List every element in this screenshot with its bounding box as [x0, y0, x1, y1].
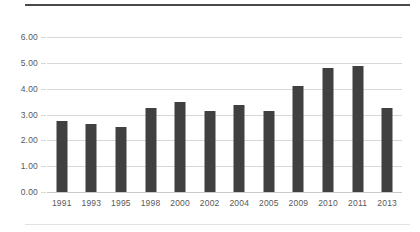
top-divider-rule — [25, 4, 410, 6]
y-axis-tick-mark — [41, 140, 46, 141]
x-axis-label-2013: 2013 — [377, 198, 397, 208]
x-axis-label-1991: 1991 — [52, 198, 72, 208]
x-axis-label-2000: 2000 — [170, 198, 190, 208]
y-axis-label-5.00: 5.00 — [21, 58, 38, 68]
y-axis-label-4.00: 4.00 — [21, 84, 38, 94]
bar-2005[interactable] — [263, 111, 274, 192]
x-axis-label-1998: 1998 — [141, 198, 161, 208]
y-axis-label-2.00: 2.00 — [21, 135, 38, 145]
bar-2013[interactable] — [382, 108, 393, 192]
bar-2000[interactable] — [175, 102, 186, 192]
bar-2002[interactable] — [204, 111, 215, 192]
x-axis-label-2002: 2002 — [200, 198, 220, 208]
bar-group: 1991199319951998200020022004200520092010… — [47, 37, 402, 192]
y-axis-tick-mark — [41, 37, 46, 38]
bar-1995[interactable] — [115, 127, 126, 192]
y-axis-tick-mark — [41, 115, 46, 116]
bar-1998[interactable] — [145, 108, 156, 192]
y-axis-tick-mark — [41, 166, 46, 167]
y-axis-label-6.00: 6.00 — [21, 32, 38, 42]
bar-slot-2013: 2013 — [372, 37, 402, 192]
bar-2004[interactable] — [234, 105, 245, 192]
bar-1993[interactable] — [86, 124, 97, 192]
bar-slot-1991: 1991 — [47, 37, 77, 192]
bar-slot-2004: 2004 — [225, 37, 255, 192]
plot-area: 0.001.002.003.004.005.006.00 19911993199… — [47, 37, 402, 192]
x-axis-label-1995: 1995 — [111, 198, 131, 208]
x-axis-label-1993: 1993 — [82, 198, 102, 208]
bar-slot-1998: 1998 — [136, 37, 166, 192]
bar-slot-2011: 2011 — [343, 37, 373, 192]
bar-slot-2010: 2010 — [313, 37, 343, 192]
bar-slot-2002: 2002 — [195, 37, 225, 192]
bar-slot-1993: 1993 — [77, 37, 107, 192]
bar-2009[interactable] — [293, 86, 304, 192]
bar-1991[interactable] — [56, 121, 67, 192]
x-axis-label-2010: 2010 — [318, 198, 338, 208]
bar-slot-2009: 2009 — [284, 37, 314, 192]
y-axis-label-0.00: 0.00 — [21, 187, 38, 197]
bar-slot-2005: 2005 — [254, 37, 284, 192]
y-axis-tick-mark — [41, 192, 46, 193]
x-axis-label-2004: 2004 — [229, 198, 249, 208]
chart-figure: 0.001.002.003.004.005.006.00 19911993199… — [0, 0, 420, 232]
bar-slot-1995: 1995 — [106, 37, 136, 192]
x-axis-label-2005: 2005 — [259, 198, 279, 208]
bar-slot-2000: 2000 — [165, 37, 195, 192]
x-axis-label-2009: 2009 — [289, 198, 309, 208]
y-axis-tick-mark — [41, 89, 46, 90]
y-axis-label-3.00: 3.00 — [21, 110, 38, 120]
bottom-divider-rule — [25, 224, 410, 225]
x-axis-label-2011: 2011 — [348, 198, 367, 208]
gridline-0.00 — [47, 192, 402, 193]
y-axis-label-1.00: 1.00 — [21, 161, 38, 171]
y-axis-tick-mark — [41, 63, 46, 64]
bar-2010[interactable] — [323, 68, 334, 192]
bar-2011[interactable] — [352, 66, 363, 192]
